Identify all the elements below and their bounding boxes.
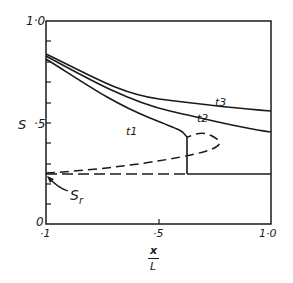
y-tick-label-05: ·5: [34, 118, 45, 130]
x-tick-label-1: 1·0: [259, 228, 277, 239]
sr-label-main: S: [70, 187, 79, 203]
x-axis-label-denominator: L: [150, 261, 156, 272]
x-tick-label-01: ·1: [40, 228, 51, 239]
x-axis-fraction-bar: [148, 258, 159, 259]
y-tick-label-1: 1·0: [26, 15, 45, 27]
curve-multivalued: [46, 133, 219, 173]
y-axis-label: S: [18, 118, 26, 131]
curve-label-t2: t2: [197, 113, 208, 124]
curve-t3: [46, 54, 271, 111]
curve-t1: [46, 59, 187, 137]
chart-plot: [0, 0, 293, 283]
x-tick-label-05: ·5: [153, 228, 164, 239]
curve-label-t1: t1: [126, 126, 137, 137]
sr-label-sub: r: [79, 195, 83, 206]
x-axis-label-numerator: x: [150, 245, 157, 256]
curve-label-t3: t3: [215, 97, 226, 108]
sr-label: Sr: [70, 188, 83, 206]
